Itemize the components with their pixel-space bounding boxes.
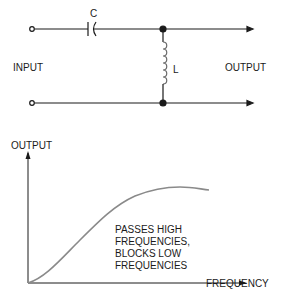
annotation-line-2: FREQUENCIES, (115, 236, 190, 247)
output-arrow-bottom (247, 101, 253, 106)
annotation-line-3: BLOCKS LOW (115, 248, 182, 259)
output-label: OUTPUT (225, 62, 266, 73)
high-pass-filter-diagram: C L INPUT OUTPUT OUTPUT FREQUENCY PASSES… (0, 0, 281, 298)
capacitor-label: C (90, 8, 97, 19)
y-axis-arrow-icon (26, 151, 31, 159)
inductor-coil (163, 42, 167, 84)
junction-bottom (160, 100, 166, 106)
inductor-label: L (173, 64, 179, 75)
input-terminal-top (30, 27, 35, 32)
circuit-schematic (30, 22, 253, 106)
annotation-line-4: FREQUENCIES (115, 260, 188, 271)
x-axis-label: FREQUENCY (206, 278, 269, 289)
annotation-text: PASSES HIGH FREQUENCIES, BLOCKS LOW FREQ… (115, 224, 190, 271)
input-label: INPUT (13, 62, 43, 73)
annotation-line-1: PASSES HIGH (115, 224, 182, 235)
input-terminal-bottom (30, 101, 35, 106)
y-axis-label: OUTPUT (11, 140, 52, 151)
output-arrow-top (247, 27, 253, 32)
